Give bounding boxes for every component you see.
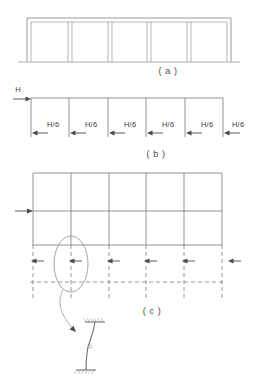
detail-leader <box>60 290 76 332</box>
applied-load-h: H <box>13 85 31 101</box>
reaction-arrow <box>228 259 241 264</box>
applied-load-label: H <box>15 85 20 94</box>
reaction-label: H/6 <box>124 120 136 129</box>
reaction-2: H/6 <box>70 120 97 136</box>
top-fixed-support <box>84 319 106 323</box>
reaction-6: H/6 <box>224 120 244 136</box>
reaction-3: H/6 <box>109 120 136 136</box>
panel-a-label: ( a ) <box>158 66 177 76</box>
panel-c-label: ( c ) <box>143 306 162 316</box>
reaction-label: H/6 <box>85 120 97 129</box>
reaction-1: H/6 <box>32 120 59 136</box>
reaction-label: H/6 <box>232 120 244 129</box>
panel-b-columns <box>31 98 223 137</box>
applied-load-arrowhead <box>26 97 32 102</box>
reaction-5: H/6 <box>186 120 213 136</box>
panel-a: ( a ) <box>18 18 240 76</box>
panel-c-solid-columns <box>33 173 222 245</box>
reaction-4: H/6 <box>147 120 174 136</box>
reaction-label: H/6 <box>201 120 213 129</box>
column-deformation-detail <box>75 319 106 374</box>
reaction-label: H/6 <box>162 120 174 129</box>
diagram-canvas: ( a ) H H/ <box>0 0 258 386</box>
panel-c-beams <box>33 173 222 245</box>
reaction-label: H/6 <box>47 120 59 129</box>
panel-c-dashed-columns <box>33 245 222 300</box>
panel-b-reactions: H/6 H/6 H/6 H/6 <box>32 120 244 136</box>
figure-root: ( a ) H H/ <box>0 0 258 386</box>
panel-a-outer-columns <box>27 18 231 62</box>
panel-a-interior-columns <box>68 22 191 62</box>
panel-a-roof <box>27 18 231 22</box>
panel-c: ( c ) <box>15 173 241 332</box>
deformed-column <box>86 322 95 370</box>
panel-c-reactions <box>31 259 241 264</box>
panel-b-label: ( b ) <box>146 149 165 159</box>
bottom-fixed-support <box>75 370 97 374</box>
panel-b: H H/6 H/6 H/6 <box>13 85 244 159</box>
panel-c-applied-load-arrow <box>15 208 33 213</box>
